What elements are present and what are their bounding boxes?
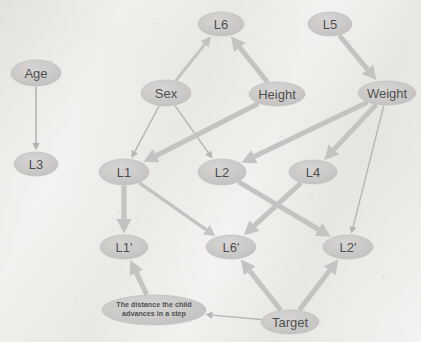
graph-node-hit-height[interactable] xyxy=(249,82,305,106)
graph-edge xyxy=(139,183,206,230)
graph-edge xyxy=(156,103,258,155)
graph-edge xyxy=(135,106,159,152)
graph-edge xyxy=(299,271,329,310)
graph-edge-arrowhead xyxy=(205,312,212,319)
graph-node-hit-l2[interactable] xyxy=(198,159,246,185)
graph-node-hit-l5[interactable] xyxy=(308,12,352,36)
graph-node-hit-l6prime[interactable] xyxy=(206,235,256,259)
graph-edge xyxy=(212,315,261,319)
graph-node-hit-l3[interactable] xyxy=(14,152,58,176)
graph-edge xyxy=(339,35,367,69)
graph-node-hit-target[interactable] xyxy=(261,310,319,334)
graph-edge xyxy=(136,273,146,295)
graph-node-hit-sex[interactable] xyxy=(141,80,191,106)
graph-node-hit-l1[interactable] xyxy=(99,159,149,185)
graph-node-hit-age[interactable] xyxy=(11,60,61,86)
graph-edge xyxy=(334,105,376,150)
graph-node-hit-l6[interactable] xyxy=(198,12,244,36)
graph-edge xyxy=(176,44,205,80)
graph-node-hit-l2prime[interactable] xyxy=(323,235,373,259)
graph-edge-arrowhead xyxy=(32,143,40,150)
graph-node-hit-distance[interactable] xyxy=(102,295,206,325)
causal-graph-diagram: AgeL3L6L5SexHeightWeightL1L2L4L1'L6'L2'T… xyxy=(0,0,421,342)
graph-edge xyxy=(250,271,281,310)
graph-edge xyxy=(240,47,268,82)
graph-edge-arrowhead xyxy=(116,219,131,234)
graph-node-hit-weight[interactable] xyxy=(358,81,416,105)
graph-edge-arrowhead xyxy=(350,226,357,234)
graph-node-hit-l4[interactable] xyxy=(289,160,337,184)
graph-edge xyxy=(254,183,301,226)
graph-node-hit-l1prime[interactable] xyxy=(100,235,148,259)
graph-edge-arrowhead xyxy=(205,151,212,159)
